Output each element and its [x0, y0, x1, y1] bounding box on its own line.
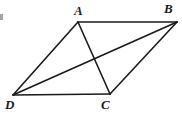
vertex-label-d: D — [5, 98, 14, 111]
edge-cd — [13, 94, 110, 95]
vertex-label-a: A — [74, 4, 83, 17]
geometry-figure: A B C D — [0, 0, 182, 115]
parallelogram-diagram-canvas — [0, 0, 182, 115]
vertex-label-b: B — [164, 2, 173, 15]
vertex-label-c: C — [101, 98, 110, 111]
diagram-background — [0, 0, 182, 115]
scan-artifact-mark — [0, 14, 3, 20]
